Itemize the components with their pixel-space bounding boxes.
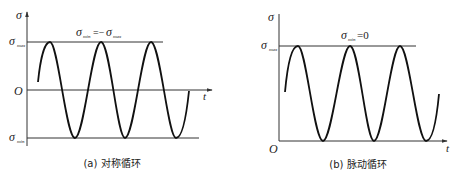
svg-text:max: max [269, 47, 278, 52]
svg-text:=−: =− [93, 27, 105, 38]
svg-text:σ: σ [341, 28, 348, 42]
svg-text:σ: σ [261, 38, 268, 52]
panel-b-pulsating-cycle: σ t O σ max σ min =0 (b) 脉动循环 [261, 10, 450, 170]
panel-b-y-axis-label: σ [268, 10, 275, 24]
panel-a-origin-label: O [14, 84, 23, 98]
svg-text:max: max [17, 43, 26, 48]
svg-text:=0: =0 [357, 29, 369, 41]
svg-text:σ: σ [9, 130, 16, 144]
panel-b-sine-curve [285, 46, 439, 141]
panel-b-x-axis-label: t [446, 142, 450, 154]
svg-text:max: max [113, 34, 122, 39]
stress-cycle-diagram: σ t O σ max σ min σ min =− σ max (a) 对称循… [0, 0, 463, 179]
svg-text:σ: σ [106, 25, 113, 39]
svg-text:min: min [83, 34, 91, 39]
panel-b-origin-label: O [269, 142, 278, 156]
svg-text:min: min [17, 139, 25, 144]
svg-text:min: min [348, 37, 356, 42]
panel-a-caption: (a) 对称循环 [83, 157, 140, 169]
panel-a-max-label: σ max [9, 34, 26, 48]
panel-b-max-label: σ max [261, 38, 278, 52]
panel-a-x-axis-label: t [203, 90, 207, 102]
panel-b-annotation: σ min =0 [341, 28, 369, 42]
svg-text:σ: σ [9, 34, 16, 48]
panel-a-annotation: σ min =− σ max [76, 25, 122, 39]
panel-b-caption: (b) 脉动循环 [329, 158, 386, 170]
panel-a-min-label: σ min [9, 130, 25, 144]
svg-text:σ: σ [76, 25, 83, 39]
panel-a-y-axis-label: σ [16, 8, 23, 22]
panel-a-symmetric-cycle: σ t O σ max σ min σ min =− σ max (a) 对称循… [9, 8, 212, 169]
